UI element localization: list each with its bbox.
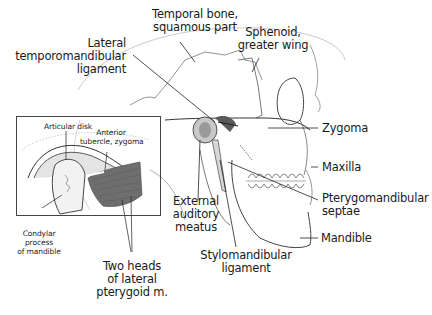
tmj-anatomy-diagram: Temporal bone, squamous part Sphenoid, g… xyxy=(0,0,432,315)
label-line: process xyxy=(16,238,62,247)
label-line: Condylar xyxy=(16,229,62,238)
label-mandible: Mandible xyxy=(321,232,372,245)
label-line: of mandible xyxy=(16,247,62,256)
label-zygoma: Zygoma xyxy=(322,122,368,135)
label-line: tubercle, zygoma xyxy=(80,137,142,146)
label-line: greater wing xyxy=(228,39,318,52)
label-two-heads-lateral-pterygoid: Two heads of lateral pterygoid m. xyxy=(88,260,176,299)
label-external-auditory-meatus: External auditory meatus xyxy=(156,195,236,234)
label-lateral-tm-ligament: Lateral temporomandibular ligament xyxy=(14,37,126,76)
label-line: Anterior xyxy=(80,128,142,137)
inset-label-condylar-process: Condylar process of mandible xyxy=(16,229,62,256)
label-line: pterygoid m. xyxy=(88,286,176,299)
label-line: Mandible xyxy=(321,232,372,245)
label-stylomandibular-ligament: Stylomandibular ligament xyxy=(196,249,296,275)
label-line: Maxilla xyxy=(322,161,361,174)
label-sphenoid: Sphenoid, greater wing xyxy=(228,26,318,52)
label-maxilla: Maxilla xyxy=(322,161,361,174)
label-line: meatus xyxy=(156,221,236,234)
label-pterygomandibular-septae: Pterygomandibular septae xyxy=(322,192,429,218)
inset-label-anterior-tubercle: Anterior tubercle, zygoma xyxy=(80,128,142,146)
label-line: ligament xyxy=(14,63,126,76)
label-line: ligament xyxy=(196,262,296,275)
label-line: Zygoma xyxy=(322,122,368,135)
label-line: septae xyxy=(322,205,429,218)
